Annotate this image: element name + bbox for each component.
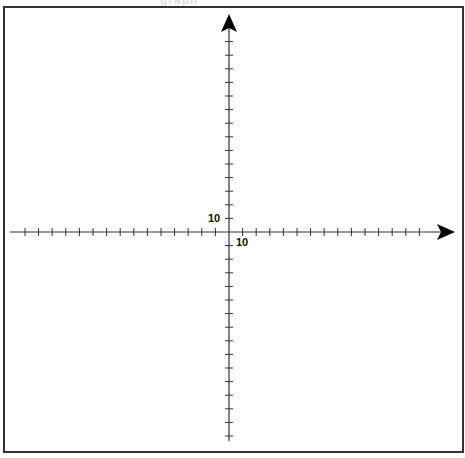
axes [10,14,455,441]
coordinate-plane: 10 10 [0,0,465,458]
x-axis-scale-label: 10 [236,236,248,248]
y-axis-scale-label: 10 [208,212,220,224]
